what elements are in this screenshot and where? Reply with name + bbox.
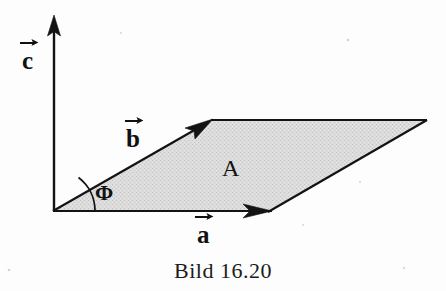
vector-b-letter: b — [126, 125, 140, 152]
figure-caption: Bild 16.20 — [0, 258, 446, 284]
figure-container: c b a Φ A Bild 16.20 — [0, 0, 446, 291]
axis-c — [48, 15, 61, 211]
vector-a-label: a — [197, 222, 210, 247]
vector-a-letter: a — [197, 221, 210, 248]
area-label: A — [222, 156, 239, 180]
axis-c-letter: c — [22, 47, 33, 74]
angle-phi-label: Φ — [95, 182, 113, 204]
vector-parallelogram-diagram — [0, 0, 446, 291]
vector-b-label: b — [126, 126, 140, 151]
axis-c-label: c — [22, 48, 33, 73]
